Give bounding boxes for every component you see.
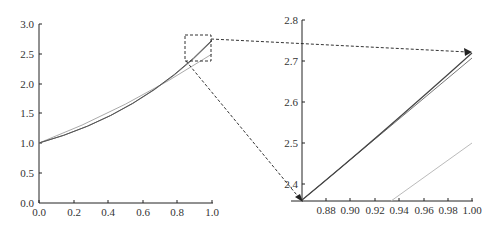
left-series xyxy=(39,40,212,143)
left-x-tick-labels: 0.0 0.2 0.4 0.6 0.8 1.0 xyxy=(32,206,219,218)
left-curve-dark xyxy=(39,40,212,143)
right-chart: 2.8 2.7 2.6 2.5 2.4 0.88 0.90 0.92 0.94 … xyxy=(284,14,482,216)
svg-text:2.5: 2.5 xyxy=(20,48,34,60)
svg-text:0.98: 0.98 xyxy=(438,204,458,216)
svg-text:2.8: 2.8 xyxy=(284,14,298,26)
svg-text:0.5: 0.5 xyxy=(20,167,34,179)
svg-text:0.4: 0.4 xyxy=(101,206,115,218)
right-y-tick-labels: 2.8 2.7 2.6 2.5 2.4 xyxy=(284,14,298,190)
left-x-axis xyxy=(39,200,213,203)
svg-text:0.92: 0.92 xyxy=(365,204,384,216)
svg-text:0.88: 0.88 xyxy=(316,204,336,216)
svg-text:0.8: 0.8 xyxy=(170,206,184,218)
svg-text:2.0: 2.0 xyxy=(20,78,34,90)
svg-text:2.7: 2.7 xyxy=(284,55,298,67)
svg-text:2.5: 2.5 xyxy=(284,137,298,149)
svg-text:0.6: 0.6 xyxy=(136,206,150,218)
svg-text:0.94: 0.94 xyxy=(389,204,409,216)
right-y-axis xyxy=(302,20,305,201)
svg-text:1.0: 1.0 xyxy=(205,206,219,218)
svg-text:2.6: 2.6 xyxy=(284,96,298,108)
svg-text:1.0: 1.0 xyxy=(20,137,34,149)
left-curve-mid xyxy=(39,41,212,143)
right-series xyxy=(302,53,472,201)
left-y-axis xyxy=(39,24,42,203)
zoom-inset-chart: 3.0 2.5 2.0 1.5 1.0 0.5 0.0 0.0 0.2 0.4 … xyxy=(0,0,500,227)
svg-text:3.0: 3.0 xyxy=(20,18,34,30)
svg-text:0.96: 0.96 xyxy=(414,204,434,216)
left-chart: 3.0 2.5 2.0 1.5 1.0 0.5 0.0 0.0 0.2 0.4 … xyxy=(20,18,219,218)
left-curve-light xyxy=(39,54,212,143)
svg-text:0.0: 0.0 xyxy=(32,206,46,218)
left-y-tick-labels: 3.0 2.5 2.0 1.5 1.0 0.5 0.0 xyxy=(20,18,34,209)
right-x-axis xyxy=(291,198,473,201)
svg-text:2.4: 2.4 xyxy=(284,178,298,190)
right-x-tick-labels: 0.88 0.90 0.92 0.94 0.96 0.98 1.00 xyxy=(316,204,482,216)
right-curve-light xyxy=(391,143,472,201)
right-curve-dark xyxy=(302,53,472,200)
arrowheads xyxy=(295,48,472,202)
svg-text:1.5: 1.5 xyxy=(20,107,34,119)
svg-text:1.00: 1.00 xyxy=(462,204,482,216)
svg-text:0.2: 0.2 xyxy=(67,206,81,218)
svg-text:0.90: 0.90 xyxy=(340,204,360,216)
